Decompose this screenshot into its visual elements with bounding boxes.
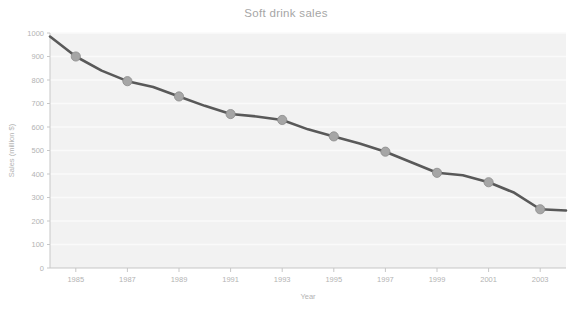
x-axis-title: Year <box>300 292 316 301</box>
x-tick-label: 2001 <box>480 275 497 284</box>
x-tick-label: 1997 <box>377 275 394 284</box>
data-point-marker <box>484 178 493 187</box>
data-point-marker <box>432 168 441 177</box>
data-point-marker <box>174 92 183 101</box>
y-tick-label: 600 <box>31 123 44 132</box>
x-tick-label: 1993 <box>274 275 291 284</box>
y-tick-label: 0 <box>40 264 44 273</box>
y-tick-label: 700 <box>31 99 44 108</box>
x-tick-label: 2003 <box>532 275 549 284</box>
data-point-marker <box>329 132 338 141</box>
y-tick-label: 400 <box>31 170 44 179</box>
x-tick-label: 1989 <box>171 275 188 284</box>
x-tick-label: 1995 <box>325 275 342 284</box>
data-point-marker <box>226 109 235 118</box>
chart-container: Soft drink sales 01002003004005006007008… <box>0 0 572 309</box>
data-point-marker <box>278 115 287 124</box>
y-tick-label: 1000 <box>27 29 44 38</box>
x-tick-label: 1985 <box>67 275 84 284</box>
x-tick-label: 1991 <box>222 275 239 284</box>
y-tick-label: 800 <box>31 76 44 85</box>
y-tick-label: 200 <box>31 217 44 226</box>
y-tick-label: 100 <box>31 240 44 249</box>
data-point-marker <box>536 205 545 214</box>
line-chart-plot: 01002003004005006007008009001000 1985198… <box>0 0 572 309</box>
data-point-marker <box>71 52 80 61</box>
y-axis-title: Sales (million $) <box>7 123 16 177</box>
data-point-marker <box>381 147 390 156</box>
y-tick-label: 500 <box>31 146 44 155</box>
x-tick-label: 1999 <box>429 275 446 284</box>
data-point-marker <box>123 77 132 86</box>
y-tick-label: 300 <box>31 193 44 202</box>
x-tick-label: 1987 <box>119 275 136 284</box>
x-axis-ticks: 1985198719891991199319951997199920012003 <box>67 268 548 284</box>
y-tick-label: 900 <box>31 52 44 61</box>
y-axis-ticks: 01002003004005006007008009001000 <box>27 29 50 273</box>
